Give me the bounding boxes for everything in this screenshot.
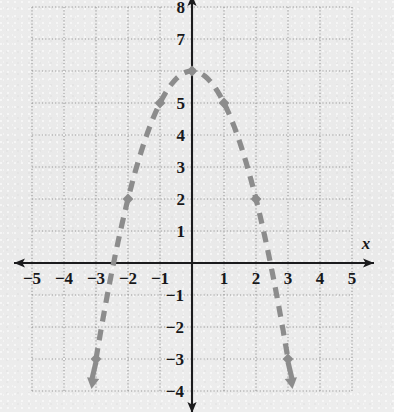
data-point-marker (123, 194, 134, 205)
x-tick-label: −4 (55, 269, 74, 288)
x-tick-label: −2 (119, 269, 137, 288)
x-tick-label: 1 (220, 269, 229, 288)
x-tick-label: 4 (316, 269, 325, 288)
y-tick-label: 4 (177, 126, 186, 145)
data-point-marker (251, 194, 262, 205)
x-tick-label: 2 (252, 269, 261, 288)
y-tick-label: 8 (177, 0, 186, 17)
data-point-marker (283, 354, 294, 365)
y-tick-label: 1 (177, 222, 186, 241)
data-point-marker (187, 66, 198, 77)
graph-canvas: −5−4−3−2−1123458754321−1−2−3−4x (0, 0, 394, 412)
data-point-marker (91, 354, 102, 365)
y-tick-label: −2 (166, 318, 184, 337)
y-tick-label: 5 (177, 94, 186, 113)
y-tick-label: 7 (177, 30, 186, 49)
y-tick-label: 2 (177, 190, 186, 209)
x-tick-label: −3 (87, 269, 105, 288)
x-tick-label: 5 (348, 269, 357, 288)
x-tick-label: 3 (284, 269, 293, 288)
x-axis-label: x (361, 234, 371, 253)
curve-arrow-right (285, 377, 297, 389)
y-tick-label: −4 (166, 382, 185, 401)
x-tick-label: −5 (23, 269, 41, 288)
parabola-plot: −5−4−3−2−1123458754321−1−2−3−4x (0, 0, 394, 412)
curve-arrow-left (87, 377, 99, 389)
y-tick-label: 3 (177, 158, 186, 177)
y-tick-label: −1 (166, 286, 184, 305)
y-tick-label: −3 (166, 350, 184, 369)
